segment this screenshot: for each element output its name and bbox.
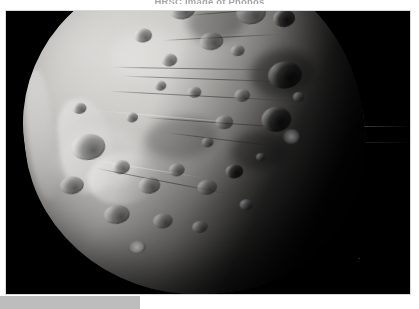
impact-crater	[198, 31, 224, 52]
impact-crater	[187, 86, 202, 99]
bright-plateau	[53, 122, 146, 194]
bright-plateau	[108, 26, 183, 82]
escarpment-ridge	[54, 95, 119, 197]
shadow-basin	[185, 11, 247, 45]
impact-crater	[233, 88, 250, 103]
surface-groove	[113, 67, 281, 71]
shadow-basin	[143, 112, 220, 162]
impact-crater	[154, 80, 167, 91]
surface-groove	[83, 158, 202, 178]
impact-crater	[272, 11, 296, 28]
impact-crater	[281, 128, 303, 145]
impact-crater	[70, 132, 107, 162]
impact-crater	[111, 159, 131, 175]
impact-crater	[266, 60, 303, 91]
impact-crater	[255, 152, 266, 161]
impact-crater	[225, 163, 245, 179]
shadow-basin	[247, 46, 316, 99]
surface-groove	[144, 117, 312, 130]
impact-crater	[191, 220, 208, 234]
surface-groove	[166, 132, 315, 151]
impact-crater	[59, 175, 85, 196]
impact-crater	[260, 105, 293, 133]
impact-crater	[201, 137, 214, 148]
surface-groove	[95, 168, 233, 196]
impact-crater	[168, 11, 196, 21]
impact-crater	[127, 240, 146, 255]
bottom-gray-bar[interactable]	[0, 296, 140, 309]
impact-crater	[235, 11, 268, 26]
impact-crater	[292, 91, 305, 102]
surface-groove	[122, 76, 298, 83]
impact-crater	[239, 198, 254, 211]
impact-crater	[214, 114, 234, 130]
impact-crater	[72, 102, 87, 115]
surface-groove	[108, 91, 298, 102]
impact-crater	[133, 27, 153, 43]
phobos-photograph[interactable]	[6, 11, 410, 294]
shadow-basin	[229, 128, 289, 173]
impact-crater	[196, 179, 218, 196]
image-caption-text: HRSC image of Phobos	[154, 0, 264, 4]
image-caption-strip: HRSC image of Phobos	[0, 0, 419, 4]
impact-crater	[137, 176, 161, 196]
impact-crater	[125, 112, 138, 123]
impact-crater	[152, 212, 174, 229]
surface-groove	[163, 34, 283, 41]
impact-crater	[168, 162, 185, 177]
impact-crater	[161, 53, 178, 68]
surface-groove	[188, 11, 292, 16]
escarpment-ridge	[84, 148, 160, 208]
impact-crater	[230, 44, 245, 57]
surface-groove	[92, 110, 242, 124]
impact-crater	[103, 204, 131, 226]
